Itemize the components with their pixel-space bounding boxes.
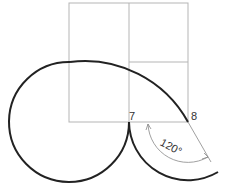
construction-diagram: 7 8 120° [0, 0, 235, 185]
arrow-icon [202, 153, 208, 159]
point-label-8: 8 [191, 110, 197, 122]
point-label-7: 7 [129, 110, 135, 122]
grid [69, 3, 188, 122]
angle-label: 120° [158, 136, 184, 157]
